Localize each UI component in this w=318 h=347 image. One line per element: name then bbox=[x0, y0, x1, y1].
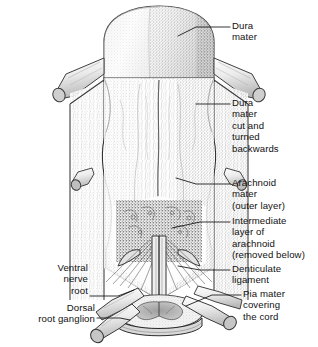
label-pia-mater: Pia mater covering the cord bbox=[243, 288, 285, 322]
dura-mater-dome bbox=[104, 6, 216, 84]
label-ventral-nerve-root: Ventral nerve root bbox=[13, 262, 88, 296]
label-denticulate-ligament: Denticulate ligament bbox=[232, 263, 281, 286]
pia-covered-cord bbox=[152, 236, 166, 300]
label-dorsal-root-ganglion: Dorsal root ganglion bbox=[6, 302, 95, 325]
label-arachnoid-mater-outer: Arachnoid mater (outer layer) bbox=[232, 177, 285, 211]
label-dura-mater-top: Dura mater bbox=[232, 20, 257, 43]
label-intermediate-arachnoid: Intermediate layer of arachnoid (removed… bbox=[232, 215, 305, 261]
label-dura-mater-cut: Dura mater cut and turned backwards bbox=[232, 97, 279, 154]
anatomy-figure: Dura materDura mater cut and turned back… bbox=[0, 0, 318, 347]
